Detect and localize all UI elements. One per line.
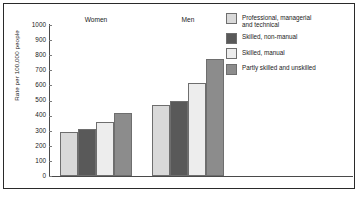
y-tick-mark-300: [49, 131, 52, 132]
y-tick-label-1000: 1000: [18, 22, 46, 28]
y-tick-label-600: 600: [18, 82, 46, 88]
y-tick-mark-500: [49, 101, 52, 102]
legend-swatch-3: [226, 64, 237, 75]
x-axis-line: [49, 176, 353, 177]
group-label-men: Men: [140, 16, 236, 23]
y-tick-mark-600: [49, 85, 52, 86]
y-tick-label-0: 0: [18, 173, 46, 179]
bar-men-0: [152, 105, 170, 176]
y-tick-mark-0: [49, 176, 52, 177]
y-tick-label-900: 900: [18, 37, 46, 43]
legend-label-0: Professional, managerialand technical: [242, 13, 311, 28]
chart-legend: Professional, managerialand technicalSki…: [226, 13, 352, 79]
y-tick-label-800: 800: [18, 52, 46, 58]
legend-item-0[interactable]: Professional, managerialand technical: [226, 13, 352, 28]
legend-label-3: Partly skilled and unskilled: [242, 64, 316, 72]
legend-swatch-2: [226, 48, 237, 59]
chart-frame: Rate per 100,000 people 1000900800700600…: [3, 3, 355, 189]
legend-swatch-1: [226, 33, 237, 44]
bar-women-1: [78, 129, 96, 176]
y-tick-mark-400: [49, 116, 52, 117]
y-tick-label-100: 100: [18, 158, 46, 164]
y-tick-mark-800: [49, 55, 52, 56]
legend-swatch-0: [226, 13, 237, 24]
y-tick-label-500: 500: [18, 97, 46, 103]
legend-label-2: Skilled, manual: [242, 48, 285, 56]
bar-men-1: [170, 101, 188, 176]
y-tick-mark-700: [49, 70, 52, 71]
legend-item-1[interactable]: Skilled, non-manual: [226, 33, 352, 44]
group-label-women: Women: [48, 16, 144, 23]
y-tick-mark-100: [49, 161, 52, 162]
bar-women-2: [96, 122, 114, 176]
y-tick-mark-200: [49, 146, 52, 147]
y-tick-mark-900: [49, 40, 52, 41]
y-tick-label-300: 300: [18, 128, 46, 134]
y-tick-mark-1000: [49, 25, 52, 26]
bar-women-3: [114, 113, 132, 176]
legend-item-3[interactable]: Partly skilled and unskilled: [226, 64, 352, 75]
bar-men-3: [206, 59, 224, 176]
bar-men-2: [188, 83, 206, 176]
y-tick-label-400: 400: [18, 112, 46, 118]
y-tick-label-200: 200: [18, 143, 46, 149]
legend-label-1: Skilled, non-manual: [242, 33, 297, 41]
y-tick-label-700: 700: [18, 67, 46, 73]
legend-item-2[interactable]: Skilled, manual: [226, 48, 352, 59]
bar-women-0: [60, 132, 78, 176]
